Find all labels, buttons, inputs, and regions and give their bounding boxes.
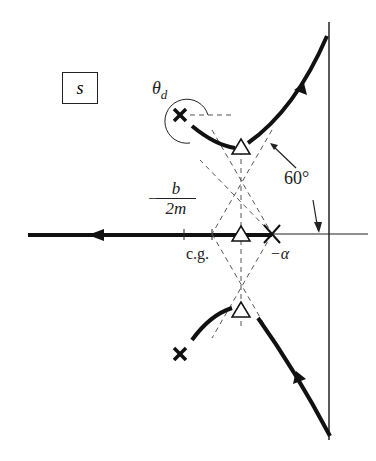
arrow-left-icon <box>88 229 104 241</box>
theta-arc <box>165 99 208 143</box>
theta-label: θd <box>152 78 167 103</box>
angle-label: 60° <box>284 168 309 189</box>
root-locus-plot <box>0 0 376 461</box>
s-plane-label: s <box>62 72 98 104</box>
zero-icons <box>232 139 250 317</box>
b-over-2m-label: − b 2m <box>156 180 196 219</box>
alpha-label: −α <box>270 245 289 263</box>
cg-label: c.g. <box>186 245 209 263</box>
